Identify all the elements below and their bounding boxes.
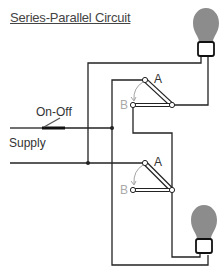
switch1-a-label: A <box>154 72 162 86</box>
two-way-switch-2 <box>130 160 174 192</box>
wire-lamp1-left <box>88 56 201 163</box>
circuit-diagram <box>0 0 224 268</box>
lamp-bottom-icon <box>191 205 217 253</box>
junction-dot <box>86 161 90 165</box>
wire-b-to-switch2 <box>133 105 172 190</box>
switch2-a-label: A <box>154 155 162 169</box>
on-off-switch <box>42 118 65 128</box>
switch1-b-label: B <box>120 98 128 112</box>
supply-label: Supply <box>9 136 46 150</box>
switch2-b-label: B <box>120 183 128 197</box>
lamp-top-icon <box>193 8 219 56</box>
junction-dot <box>110 126 114 130</box>
two-way-switch-1 <box>130 77 174 107</box>
on-off-label: On-Off <box>36 105 72 119</box>
